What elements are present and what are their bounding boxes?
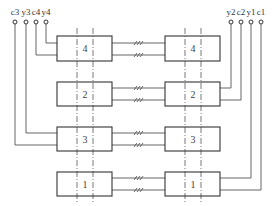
hatch-row2-a bbox=[134, 86, 143, 90]
terminal-circles bbox=[13, 20, 263, 24]
right-box-1-label: 1 bbox=[191, 179, 196, 190]
hatch-row3-a bbox=[134, 131, 143, 135]
terminal-label-c2: c2 bbox=[237, 7, 246, 17]
terminal-label-y2: y2 bbox=[227, 7, 236, 17]
left-wires bbox=[15, 24, 57, 145]
right-wires bbox=[220, 24, 261, 190]
wiring-diagram: 4 4 2 2 3 3 1 1 c3 y3 c4 y4 y2 c2 y1 c1 bbox=[0, 0, 272, 206]
link-lines bbox=[112, 43, 165, 190]
hatch-row2-b bbox=[134, 98, 143, 102]
hatch-row4-b bbox=[134, 53, 143, 57]
terminal-label-c3: c3 bbox=[11, 7, 20, 17]
box-labels: 4 4 2 2 3 3 1 1 bbox=[83, 43, 196, 190]
terminal-c2-icon bbox=[239, 20, 243, 24]
terminal-c4-icon bbox=[34, 20, 38, 24]
hatch-row4-a bbox=[134, 41, 143, 45]
terminal-y4-icon bbox=[44, 20, 48, 24]
boxes bbox=[57, 36, 220, 196]
terminal-y1-icon bbox=[249, 20, 253, 24]
terminal-y3-icon bbox=[24, 20, 28, 24]
terminal-label-y1: y1 bbox=[247, 7, 256, 17]
terminal-labels: c3 y3 c4 y4 y2 c2 y1 c1 bbox=[11, 7, 266, 17]
hatch-row3-b bbox=[134, 143, 143, 147]
right-box-2-label: 2 bbox=[191, 89, 196, 100]
terminal-label-y3: y3 bbox=[22, 7, 32, 17]
terminal-label-c1: c1 bbox=[257, 7, 266, 17]
left-box-1-label: 1 bbox=[83, 179, 88, 190]
left-box-3-label: 3 bbox=[83, 134, 88, 145]
right-box-4-label: 4 bbox=[191, 43, 196, 54]
terminal-label-c4: c4 bbox=[32, 7, 41, 17]
hatch-row1-b bbox=[134, 188, 143, 192]
hatch-row1-a bbox=[134, 176, 143, 180]
terminal-c1-icon bbox=[259, 20, 263, 24]
terminal-y2-icon bbox=[229, 20, 233, 24]
right-box-3-label: 3 bbox=[191, 134, 196, 145]
left-box-2-label: 2 bbox=[83, 89, 88, 100]
left-box-4-label: 4 bbox=[83, 43, 88, 54]
terminal-c3-icon bbox=[13, 20, 17, 24]
terminal-label-y4: y4 bbox=[42, 7, 52, 17]
hatch-marks bbox=[134, 41, 143, 192]
